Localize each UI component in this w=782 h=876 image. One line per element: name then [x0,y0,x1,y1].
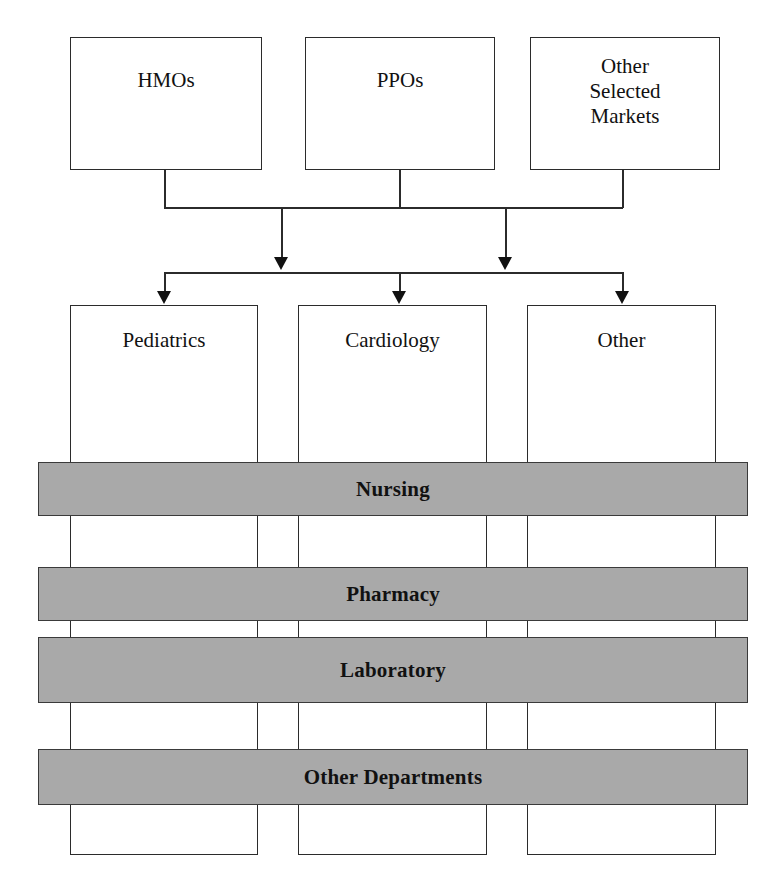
arrowhead-other-service-line-icon [615,291,629,304]
connector-drop-other-markets [622,170,624,208]
market-box-hmos[interactable]: HMOs [70,37,262,170]
service-line-cardiology-label: Cardiology [299,328,486,353]
market-box-other-selected-markets-label: Other Selected Markets [531,54,719,128]
service-line-pediatrics-label: Pediatrics [71,328,257,353]
market-box-ppos[interactable]: PPOs [305,37,495,170]
department-bar-other-departments-label: Other Departments [304,765,483,790]
department-bar-laboratory-label: Laboratory [340,658,446,683]
diagram-canvas: HMOs PPOs Other Selected Markets Pediatr… [0,0,782,876]
connector-drop-hmos [164,170,166,208]
service-line-other-label: Other [528,328,715,353]
department-bar-nursing-label: Nursing [356,477,430,502]
connector-feeder-right [505,207,507,259]
connector-bus-service-lines [164,272,623,274]
market-box-hmos-label: HMOs [71,68,261,93]
connector-drop-ppos [399,170,401,208]
department-bar-laboratory[interactable]: Laboratory [38,637,748,703]
connector-feeder-left [281,207,283,259]
market-box-other-selected-markets[interactable]: Other Selected Markets [530,37,720,170]
market-box-ppos-label: PPOs [306,68,494,93]
arrowhead-cardiology-icon [392,291,406,304]
department-bar-nursing[interactable]: Nursing [38,462,748,516]
arrowhead-pediatrics-icon [157,291,171,304]
department-bar-pharmacy-label: Pharmacy [346,582,440,607]
arrowhead-feeder-right-icon [498,257,512,270]
department-bar-pharmacy[interactable]: Pharmacy [38,567,748,621]
arrowhead-feeder-left-icon [274,257,288,270]
connector-bus-markets [164,207,623,209]
department-bar-other-departments[interactable]: Other Departments [38,749,748,805]
